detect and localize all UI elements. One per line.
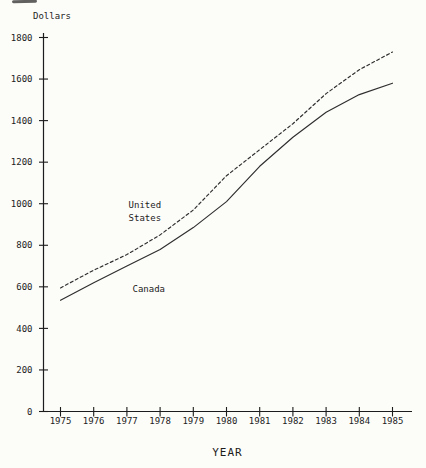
line-chart: 0200400600800100012001400160018001975197… [0,0,426,468]
x-axis-title: YEAR [212,446,243,459]
y-tick-label-0: 0 [27,407,32,417]
x-tick-label-1982: 1982 [282,416,304,426]
x-tick-label-1977: 1977 [116,416,138,426]
y-tick-label-600: 600 [16,282,32,292]
y-tick-label-800: 800 [16,240,32,250]
y-tick-label-1600: 1600 [11,74,33,84]
x-tick-label-1976: 1976 [83,416,105,426]
x-tick-label-1978: 1978 [149,416,171,426]
x-tick-label-1983: 1983 [315,416,337,426]
series-label-united-states-line-2: States [129,213,162,223]
x-tick-label-1975: 1975 [50,416,72,426]
y-tick-label-400: 400 [16,324,32,334]
y-tick-label-1400: 1400 [11,116,33,126]
series-line-canada [61,83,393,300]
x-tick-label-1985: 1985 [382,416,404,426]
y-tick-label-1000: 1000 [11,199,33,209]
x-tick-label-1981: 1981 [249,416,271,426]
y-axis-title: Dollars [33,11,71,21]
series-label-united-states-line-1: United [129,200,162,210]
series-line-united-states [61,52,393,288]
series-label-canada: Canada [133,284,166,294]
y-tick-label-200: 200 [16,365,32,375]
x-tick-label-1979: 1979 [182,416,204,426]
x-tick-label-1980: 1980 [216,416,238,426]
x-tick-label-1984: 1984 [348,416,370,426]
scan-artifact-mark [12,0,37,3]
y-tick-label-1200: 1200 [11,157,33,167]
chart-page: 0200400600800100012001400160018001975197… [0,0,426,468]
y-tick-label-1800: 1800 [11,33,33,43]
